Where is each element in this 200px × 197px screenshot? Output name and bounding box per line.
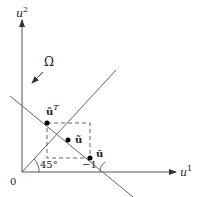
omega-pointer-arrow [32,72,43,83]
origin-label: 0 [10,176,16,187]
point-transpose [45,121,50,126]
angle-45-label: 45° [40,159,58,170]
u1-axis-label: u1 [180,164,192,179]
slope-minus1-label: −1 [82,159,97,170]
omega-line [10,96,133,197]
u2-axis-label: u2 [16,5,28,20]
point-lower-label: ū [96,148,103,159]
point-lower [88,156,93,161]
omega-label: Ω [44,55,54,69]
angle-45-arc [34,159,39,172]
diagram-canvas: u1 u2 0 45° −1 Ω ũT ũ ū [0,0,200,197]
point-transpose-label: ũT [46,103,59,117]
point-center-label: ũ [75,134,82,145]
point-center [66,138,71,143]
